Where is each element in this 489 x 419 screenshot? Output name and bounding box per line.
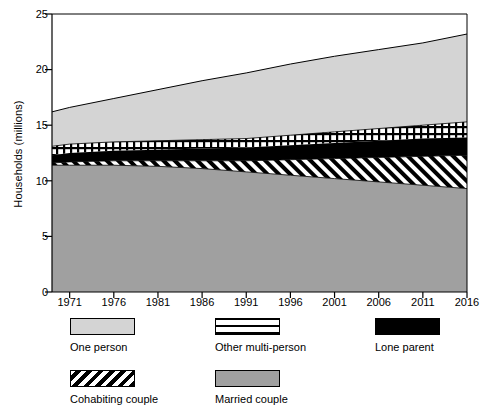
x-tick-1981: 1981	[138, 296, 178, 308]
chart-legend: One person Other multi-person Lone paren…	[0, 318, 489, 419]
legend-item-married-couple: Married couple	[215, 370, 365, 405]
legend-label-one-person: One person	[70, 341, 220, 353]
legend-label-cohabiting-couple: Cohabiting couple	[70, 393, 220, 405]
legend-item-one-person: One person	[70, 318, 220, 353]
x-tick-1976: 1976	[94, 296, 134, 308]
x-tick-2011: 2011	[403, 296, 443, 308]
x-tick-1971: 1971	[50, 296, 90, 308]
x-axis-tick-labels: 1971197619811986199119962001200620112016	[0, 296, 489, 320]
legend-swatch-cohabiting-couple-icon	[70, 370, 135, 387]
x-tick-2001: 2001	[315, 296, 355, 308]
stacked-area-plot	[0, 0, 489, 310]
x-tick-1991: 1991	[226, 296, 266, 308]
legend-swatch-lone-parent-icon	[375, 318, 440, 335]
legend-item-lone-parent: Lone parent	[375, 318, 489, 353]
x-tick-1996: 1996	[270, 296, 310, 308]
x-tick-2006: 2006	[359, 296, 399, 308]
legend-label-lone-parent: Lone parent	[375, 341, 489, 353]
legend-label-married-couple: Married couple	[215, 393, 365, 405]
x-tick-1986: 1986	[182, 296, 222, 308]
y-axis-ticks	[45, 14, 52, 292]
legend-label-other-multi-person: Other multi-person	[215, 341, 365, 353]
legend-swatch-married-couple-icon	[215, 370, 280, 387]
legend-item-cohabiting-couple: Cohabiting couple	[70, 370, 220, 405]
legend-swatch-other-multi-person-icon	[215, 318, 280, 335]
legend-row-2: Cohabiting couple Married couple	[0, 370, 489, 418]
legend-swatch-one-person-icon	[70, 318, 135, 335]
area-bands	[52, 34, 467, 292]
chart-figure: Households (millions) 25 20 15 10 5 0	[0, 0, 489, 419]
x-tick-2016: 2016	[447, 296, 487, 308]
legend-row-1: One person Other multi-person Lone paren…	[0, 318, 489, 366]
legend-item-other-multi-person: Other multi-person	[215, 318, 365, 353]
